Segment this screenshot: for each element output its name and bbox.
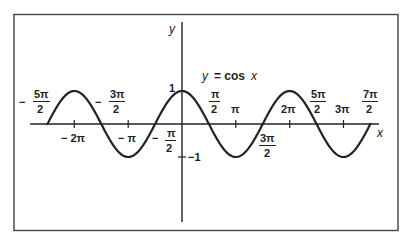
svg-text:= cos: = cos: [214, 69, 245, 83]
label-2pi: 2π: [281, 103, 296, 115]
svg-text:−: −: [95, 96, 101, 108]
label-neg-pi-over-2: − π 2: [152, 127, 176, 154]
svg-text:3π: 3π: [260, 132, 275, 144]
label-3pi-over-2: 3π 2: [259, 132, 276, 159]
svg-text:2: 2: [113, 103, 119, 115]
y-axis-label: y: [168, 22, 176, 36]
svg-text:2: 2: [211, 103, 217, 115]
svg-text:π: π: [167, 127, 176, 139]
label-neg-3pi-over-2: − 3π 2: [95, 88, 125, 115]
svg-text:−: −: [19, 96, 25, 108]
svg-text:2: 2: [37, 103, 43, 115]
x-axis-label: x: [376, 126, 384, 140]
svg-text:5π: 5π: [34, 88, 49, 100]
label-pi-over-2: π 2: [209, 88, 220, 115]
label-neg-2pi: − 2π: [61, 132, 86, 144]
svg-text:2: 2: [166, 142, 172, 154]
svg-text:3π: 3π: [110, 88, 125, 100]
label-neg-pi: − π: [118, 132, 136, 144]
label-3pi: 3π: [335, 103, 350, 115]
svg-text:π: π: [211, 88, 220, 100]
label-5pi-over-2: 5π 2: [310, 88, 326, 115]
svg-text:2: 2: [314, 103, 320, 115]
svg-text:y: y: [201, 69, 209, 83]
y-label-one: 1: [169, 82, 175, 94]
svg-text:−: −: [152, 132, 158, 144]
svg-text:5π: 5π: [311, 88, 326, 100]
svg-text:2: 2: [366, 103, 372, 115]
equation-label: y = cos x: [201, 69, 258, 83]
label-pi: π: [231, 103, 240, 115]
cosine-graph: y x y = cos x 1 −1 − 5π 2 − 2π − 3π 2 − …: [0, 0, 403, 240]
svg-text:x: x: [250, 69, 258, 83]
label-neg-5pi-over-2: − 5π 2: [19, 88, 50, 115]
label-7pi-over-2: 7π 2: [362, 88, 378, 115]
svg-text:7π: 7π: [363, 88, 378, 100]
plot-border: [14, 15, 398, 231]
y-label-neg-one: −1: [188, 151, 201, 163]
svg-text:2: 2: [264, 147, 270, 159]
